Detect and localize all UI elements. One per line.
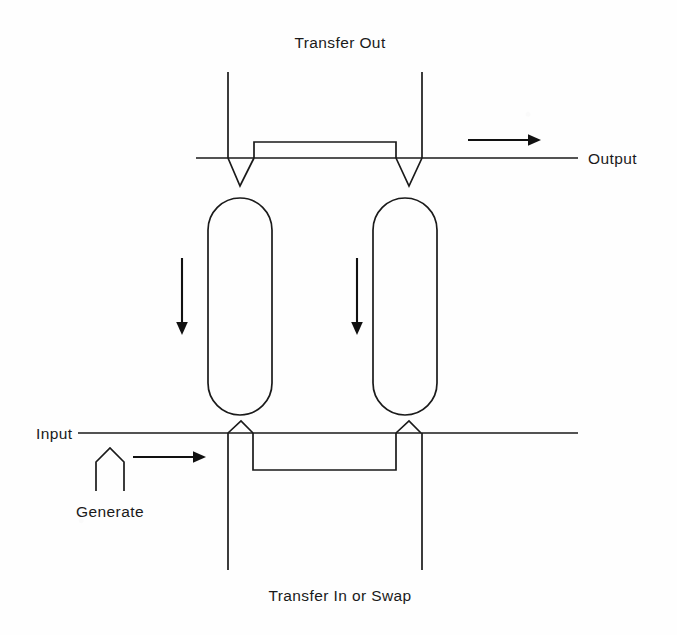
output-flow-arrow bbox=[468, 134, 541, 146]
input-flow-arrow bbox=[133, 451, 206, 463]
right-storage-loop bbox=[373, 198, 437, 415]
left-loop-circulation-arrow bbox=[176, 258, 188, 335]
transfer-out-gate-left-notch bbox=[228, 158, 254, 186]
generate-element bbox=[96, 448, 124, 491]
left-storage-loop bbox=[208, 198, 272, 415]
transfer-in-gate-left-peak bbox=[228, 421, 253, 433]
transfer-out-connector-bar bbox=[254, 142, 396, 158]
storage-loops-group bbox=[208, 198, 437, 415]
input-track-group bbox=[78, 421, 578, 433]
left-loop-arrow-head bbox=[176, 322, 188, 335]
transfer-in-connector-bar bbox=[253, 433, 396, 470]
diagram-root: Transfer Out Output Input Generate Trans… bbox=[0, 0, 677, 635]
transfer-in-gate-right-peak bbox=[396, 421, 421, 433]
bubble-memory-schematic: Transfer Out Output Input Generate Trans… bbox=[0, 0, 677, 635]
generate-label: Generate bbox=[76, 503, 144, 520]
input-flow-arrow-head bbox=[193, 451, 206, 463]
output-label: Output bbox=[588, 150, 637, 167]
transfer-out-label: Transfer Out bbox=[294, 34, 386, 51]
transfer-out-gate-right-notch bbox=[396, 158, 422, 186]
generate-peak-shape bbox=[96, 448, 124, 491]
transfer-in-group bbox=[228, 433, 422, 570]
transfer-in-or-swap-label: Transfer In or Swap bbox=[268, 587, 411, 604]
transfer-out-group bbox=[228, 72, 422, 158]
input-label: Input bbox=[36, 425, 73, 442]
right-loop-arrow-head bbox=[351, 322, 363, 335]
right-loop-circulation-arrow bbox=[351, 258, 363, 335]
output-flow-arrow-head bbox=[528, 134, 541, 146]
output-track-group bbox=[196, 158, 578, 186]
